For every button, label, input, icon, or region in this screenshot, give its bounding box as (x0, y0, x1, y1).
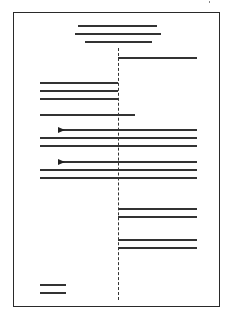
arrow-marker-icon (58, 159, 65, 165)
arrow-marker-icon (58, 127, 65, 133)
text-line (40, 137, 197, 139)
title-line (85, 41, 152, 43)
text-line (59, 161, 197, 163)
text-line (118, 247, 197, 249)
title-line (75, 33, 161, 35)
text-line (40, 145, 197, 147)
text-line (40, 169, 197, 171)
text-line (40, 90, 118, 92)
text-line (40, 284, 66, 286)
title-line (78, 25, 157, 27)
text-line (40, 177, 197, 179)
text-line (118, 57, 197, 59)
text-line (40, 98, 118, 100)
scan-speck (209, 1, 210, 3)
text-line (59, 129, 197, 131)
text-line (40, 114, 135, 116)
text-line (40, 292, 66, 294)
text-line (118, 239, 197, 241)
text-line (118, 208, 197, 210)
text-line (118, 216, 197, 218)
center-axis-dashed (118, 48, 119, 300)
text-line (40, 82, 118, 84)
